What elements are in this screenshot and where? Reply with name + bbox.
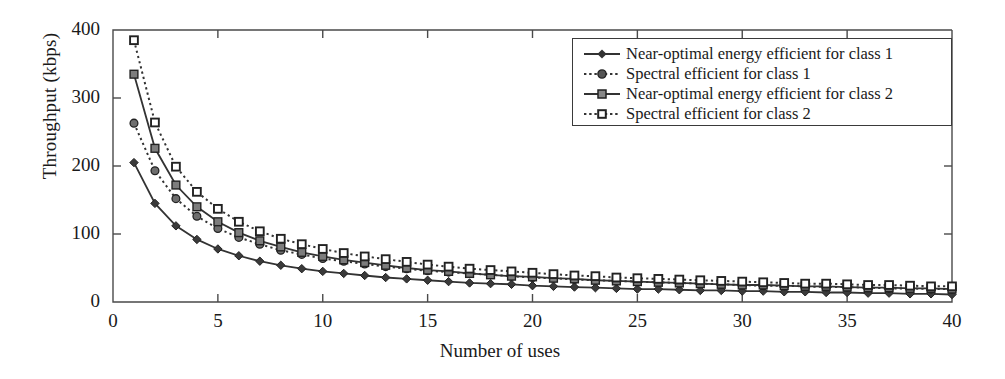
legend-marker-square-icon [582,85,622,103]
legend-label: Spectral efficient for class 1 [626,65,811,83]
legend-item: Spectral efficient for class 2 [582,104,951,124]
x-tick-label: 25 [607,310,667,332]
legend-label: Spectral efficient for class 2 [626,105,811,123]
x-tick-label: 5 [188,310,248,332]
x-axis-label: Number of uses [330,340,670,362]
y-tick-label: 100 [34,222,100,244]
y-tick-label: 200 [34,154,100,176]
legend-item: Spectral efficient for class 1 [582,64,951,84]
legend-item: Near-optimal energy efficient for class … [582,84,951,104]
x-tick-label: 0 [83,310,143,332]
x-tick-label: 30 [712,310,772,332]
y-tick-label: 300 [34,86,100,108]
legend-label: Near-optimal energy efficient for class … [626,85,893,103]
x-tick-label: 35 [817,310,877,332]
x-tick-label: 20 [503,310,563,332]
series-1 [130,119,956,293]
legend-marker-diamond-icon [582,45,622,63]
legend-item: Near-optimal energy efficient for class … [582,44,951,64]
chart-legend: Near-optimal energy efficient for class … [572,38,952,126]
chart-figure: Throughput (kbps) Number of uses 0100200… [0,0,1005,379]
x-tick-label: 40 [922,310,982,332]
y-tick-label: 0 [34,290,100,312]
legend-label: Near-optimal energy efficient for class … [626,45,893,63]
legend-marker-open-square-icon [582,105,622,123]
y-tick-label: 400 [34,18,100,40]
x-tick-label: 10 [293,310,353,332]
x-tick-label: 15 [398,310,458,332]
legend-marker-circle-icon [582,65,622,83]
